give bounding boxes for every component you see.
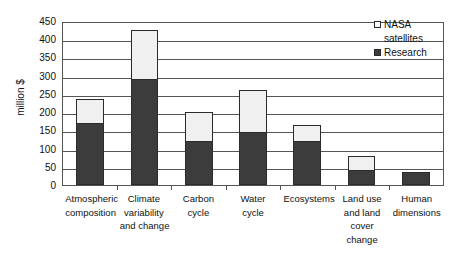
x-axis-category-labels: AtmosphericcompositionClimatevariability…	[62, 192, 444, 268]
y-axis-tick-labels: 450400350300250200150100500	[14, 0, 56, 270]
bar-stack	[76, 99, 104, 185]
category-label-line: cycle	[174, 206, 222, 220]
y-axis-tick-50: 50	[14, 163, 56, 173]
bar-column-1	[120, 23, 168, 185]
category-label-line: Climate	[120, 192, 168, 206]
y-axis-tick-450: 450	[14, 17, 56, 27]
category-label-3: Watercycle	[229, 192, 277, 268]
category-label-line: Human	[393, 192, 441, 206]
y-axis-tick-200: 200	[14, 108, 56, 118]
y-axis-tick-0: 0	[14, 181, 56, 191]
bar-stack	[293, 125, 321, 185]
legend-item-research: Research	[374, 46, 456, 59]
x-tick-mark-1	[117, 186, 118, 190]
x-tick-mark-2	[171, 186, 172, 190]
bar-segment-research	[348, 170, 376, 185]
chart-legend: NASA satellites Research	[374, 18, 456, 60]
legend-label-research: Research	[384, 46, 427, 59]
bar-segment-research	[76, 123, 104, 185]
bar-segment-nasa-satellites	[293, 125, 321, 141]
bar-segment-nasa-satellites	[131, 30, 159, 79]
x-tick-mark-6	[389, 186, 390, 190]
category-label-line: Water	[229, 192, 277, 206]
bar-segment-research	[131, 79, 159, 185]
category-label-1: Climatevariabilityand change	[120, 192, 168, 268]
bar-segment-nasa-satellites	[348, 156, 376, 171]
y-axis-tick-250: 250	[14, 90, 56, 100]
legend-label-satellites: satellites	[384, 32, 423, 45]
category-label-line: composition	[65, 206, 113, 220]
bar-segment-nasa-satellites	[76, 99, 104, 123]
category-label-2: Carboncycle	[174, 192, 222, 268]
legend-swatch-nasa-satellites	[374, 21, 381, 28]
bar-stack	[131, 30, 159, 185]
x-tick-mark-5	[335, 186, 336, 190]
category-label-line: Ecosystems	[283, 192, 331, 206]
y-axis-tick-400: 400	[14, 35, 56, 45]
y-axis-tick-350: 350	[14, 53, 56, 63]
category-label-line: Carbon	[174, 192, 222, 206]
bar-segment-nasa-satellites	[239, 90, 267, 132]
category-label-line: Atmospheric	[65, 192, 113, 206]
legend-swatch-research	[374, 49, 381, 56]
bar-column-0	[66, 23, 114, 185]
bar-stack	[239, 90, 267, 185]
category-label-line: change	[338, 233, 386, 247]
legend-item-nasa-satellites-line2: satellites	[374, 32, 456, 45]
bar-stack	[402, 172, 430, 185]
stacked-bar-chart: million $ 450400350300250200150100500 At…	[0, 0, 456, 270]
category-label-line: cycle	[229, 206, 277, 220]
bar-segment-research	[402, 172, 430, 185]
bar-segment-research	[185, 141, 213, 185]
category-label-5: Land useand landcoverchange	[338, 192, 386, 268]
bar-segment-research	[293, 141, 321, 185]
category-label-0: Atmosphericcomposition	[65, 192, 113, 268]
bar-stack	[185, 112, 213, 185]
y-axis-tick-300: 300	[14, 72, 56, 82]
x-tick-mark-3	[226, 186, 227, 190]
y-axis-tick-150: 150	[14, 126, 56, 136]
category-label-line: cover	[338, 219, 386, 233]
bar-column-4	[283, 23, 331, 185]
bar-column-2	[175, 23, 223, 185]
x-axis-tick-marks	[62, 186, 444, 190]
bar-segment-research	[239, 132, 267, 185]
x-tick-mark-4	[280, 186, 281, 190]
bar-segment-nasa-satellites	[185, 112, 213, 141]
category-label-line: dimensions	[393, 206, 441, 220]
category-label-line: Land use	[338, 192, 386, 206]
category-label-line: variability	[120, 206, 168, 220]
bar-stack	[348, 156, 376, 185]
category-label-line: and land	[338, 206, 386, 220]
y-axis-tick-100: 100	[14, 145, 56, 155]
legend-item-nasa-satellites: NASA	[374, 18, 456, 31]
category-label-6: Humandimensions	[393, 192, 441, 268]
category-label-4: Ecosystems	[283, 192, 331, 268]
legend-label-nasa: NASA	[384, 18, 411, 31]
category-label-line: and change	[120, 219, 168, 233]
bar-column-3	[229, 23, 277, 185]
